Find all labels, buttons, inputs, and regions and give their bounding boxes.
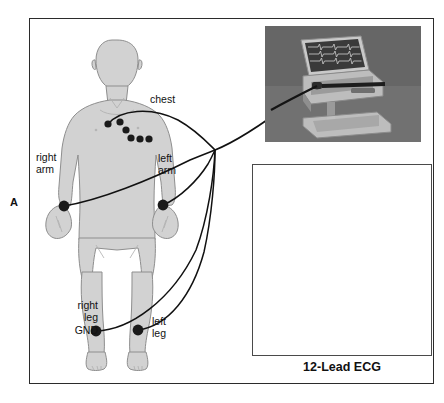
label-right-leg: right leg xyxy=(52,300,98,323)
figure-caption: 12-Lead ECG xyxy=(252,360,432,374)
label-chest: chest xyxy=(150,94,175,106)
ecg-machine-photo xyxy=(265,26,421,142)
label-ground: GND xyxy=(52,325,98,337)
ecg-printout-frame xyxy=(252,164,432,356)
label-left-leg: left leg xyxy=(152,316,166,339)
label-right-arm: right arm xyxy=(36,152,56,175)
machine-lid xyxy=(301,36,369,76)
label-left-arm: left arm xyxy=(158,153,176,176)
panel-letter: A xyxy=(10,196,18,208)
figure-panel-a: A xyxy=(0,0,444,403)
